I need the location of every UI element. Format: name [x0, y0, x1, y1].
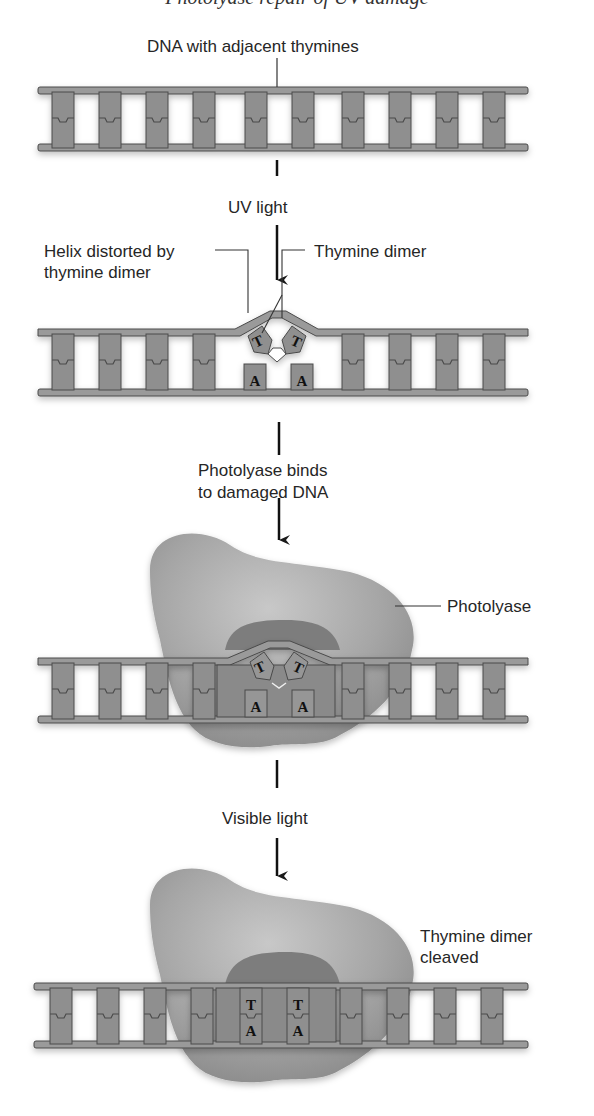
dna-strand-damaged — [38, 311, 528, 396]
photolyase-enzyme — [150, 869, 414, 1083]
label-photolyase-binds-line2: to damaged DNA — [198, 482, 328, 503]
thymine-base-label: T — [293, 997, 303, 1013]
leader-line — [282, 250, 305, 318]
label-dimer-cleaved-line1: Thymine dimer — [420, 926, 532, 947]
adenine-base-label: A — [251, 699, 262, 715]
label-dna-adjacent-thymines: DNA with adjacent thymines — [147, 36, 359, 57]
label-photolyase-binds-line1: Photolyase binds — [198, 460, 327, 481]
dna-strand-intact — [38, 87, 528, 151]
label-thymine-dimer: Thymine dimer — [314, 241, 426, 262]
adenine-base-label: A — [297, 373, 308, 389]
dna-strand-repaired — [34, 983, 528, 1048]
label-dimer-cleaved-line2: cleaved — [420, 947, 479, 968]
adenine-base-label: A — [293, 1023, 304, 1039]
label-visible-light: Visible light — [222, 808, 308, 829]
label-uv-light: UV light — [228, 197, 288, 218]
label-helix-distorted-line1: Helix distorted by — [44, 241, 174, 262]
adenine-base-label: A — [298, 699, 309, 715]
label-helix-distorted-line2: thymine dimer — [44, 262, 151, 283]
label-photolyase: Photolyase — [447, 596, 531, 617]
adenine-base-label: A — [246, 1023, 257, 1039]
adenine-base-label: A — [250, 373, 261, 389]
thymine-base-label: T — [246, 997, 256, 1013]
leader-line — [215, 250, 248, 313]
diagram-canvas: T T A A T T A A — [0, 0, 594, 1116]
